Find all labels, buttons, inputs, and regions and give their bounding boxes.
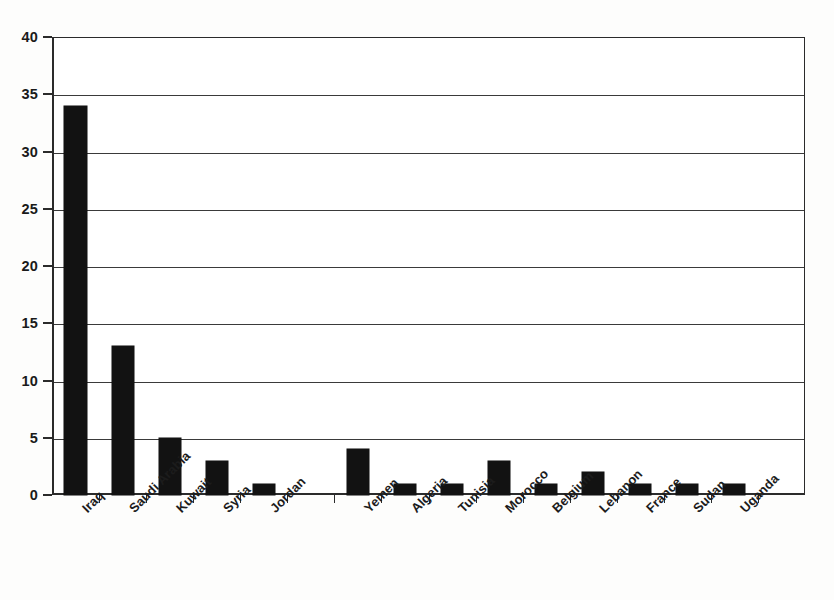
bar-yemen [347,449,369,495]
y-tick-mark-10 [43,380,52,382]
bar-saudi-arabia [112,346,134,495]
y-tick-label-25: 25 [21,201,38,217]
y-tick-label-0: 0 [30,487,38,503]
y-tick-label-30: 30 [21,144,38,160]
x-axis-labels: IraqSaudi ArabiaKuwaitSyriaJordanYemenAl… [52,505,805,600]
y-tick-label-40: 40 [21,29,38,45]
y-tick-mark-20 [43,265,52,267]
x-tick-mark-5 [334,495,335,503]
y-tick-label-10: 10 [21,373,38,389]
y-tick-mark-5 [43,437,52,439]
y-tick-mark-25 [43,208,52,210]
y-tick-label-20: 20 [21,258,38,274]
y-tick-label-35: 35 [21,86,38,102]
y-axis: 0510152025303540 [0,0,52,600]
y-tick-mark-30 [43,151,52,153]
y-tick-mark-15 [43,322,52,324]
bar-jordan [253,484,275,495]
bars-layer [52,37,805,495]
y-tick-mark-40 [43,36,52,38]
y-tick-label-5: 5 [30,430,38,446]
bar-chart-figure: 0510152025303540 IraqSaudi ArabiaKuwaitS… [0,0,834,600]
y-tick-label-15: 15 [21,315,38,331]
bar-iraq [64,106,86,495]
y-tick-mark-35 [43,93,52,95]
y-tick-mark-0 [43,494,52,496]
